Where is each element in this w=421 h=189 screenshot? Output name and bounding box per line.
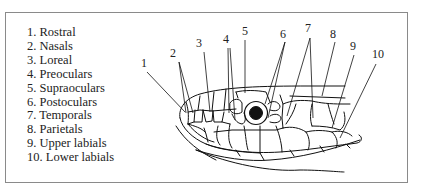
callout-8: 8 <box>330 27 336 41</box>
callout-5: 5 <box>242 24 248 38</box>
snake-head-diagram: 1 2 3 4 5 6 7 8 9 10 <box>0 0 421 189</box>
callout-1: 1 <box>141 56 147 70</box>
callout-10: 10 <box>372 47 384 61</box>
callout-2: 2 <box>170 46 176 60</box>
callout-4: 4 <box>223 32 229 46</box>
callout-9: 9 <box>350 39 356 53</box>
callout-3: 3 <box>196 36 202 50</box>
callout-6: 6 <box>280 27 286 41</box>
callout-7: 7 <box>305 21 311 35</box>
snake-head-outline <box>176 86 361 172</box>
